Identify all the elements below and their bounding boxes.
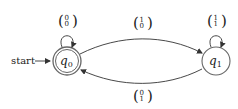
svg-text:(: ( — [133, 87, 139, 105]
transition-q0-q0: ( ) 0 0 — [58, 12, 78, 47]
automaton-diagram: start q0 q1 ( ) 0 0 ( ) 1 0 ( ) 1 1 ( — [0, 0, 238, 109]
svg-text:1: 1 — [140, 95, 144, 103]
svg-text:0: 0 — [65, 20, 69, 28]
svg-text:1: 1 — [214, 20, 218, 28]
svg-text:(: ( — [207, 12, 213, 30]
svg-text:(: ( — [58, 12, 64, 30]
svg-text:): ) — [221, 12, 227, 30]
svg-text:(: ( — [133, 14, 139, 32]
svg-text:): ) — [147, 87, 153, 105]
state-q0: q0 — [53, 47, 81, 75]
state-q1: q1 — [202, 47, 230, 75]
transition-q1-q1: ( ) 1 1 — [207, 12, 227, 47]
start-label: start — [11, 55, 35, 66]
svg-text:): ) — [147, 14, 153, 32]
start-arrow: start — [11, 55, 50, 66]
transition-q1-q0: ( ) 0 1 — [81, 69, 202, 105]
svg-text:): ) — [72, 12, 78, 30]
svg-text:0: 0 — [140, 22, 144, 30]
transition-q0-q1: ( ) 1 0 — [80, 14, 202, 54]
